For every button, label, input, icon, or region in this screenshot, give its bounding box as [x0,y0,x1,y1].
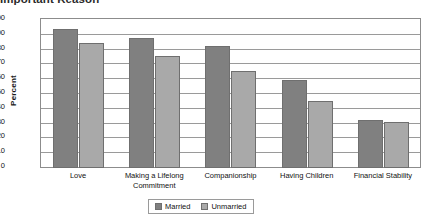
bar-series-layer [41,19,420,168]
chart-legend: MarriedUnmarried [148,199,254,214]
y-axis-tick-label: 30 [0,118,5,126]
bar-unmarried [79,43,104,168]
legend-swatch-icon [155,203,162,210]
legend-label: Married [165,202,190,211]
y-axis-tick-label: 20 [0,132,5,140]
bar-married [282,80,307,168]
y-axis-tick-label: 80 [0,44,5,52]
bar-married [53,29,78,168]
bar-unmarried [231,71,256,168]
bar-married [129,38,154,168]
y-axis-tick-label: 10 [0,147,5,155]
x-axis-tick-label-line: Financial Stability [331,171,428,181]
legend-label: Unmarried [211,202,246,211]
y-axis-tick-label: 50 [0,88,5,96]
bar-unmarried [155,56,180,168]
x-axis-tick-label: Financial Stability [331,171,428,181]
x-axis-tick-label-line: Commitment [102,181,206,191]
bar-group [129,19,181,168]
bar-unmarried [308,101,333,168]
bar-group [205,19,257,168]
legend-swatch-icon [201,203,208,210]
legend-item: Married [155,202,190,211]
bar-married [205,46,230,168]
y-axis-tick-label: 40 [0,103,5,111]
y-axis-tick-label: 60 [0,73,5,81]
bar-married [358,120,383,168]
legend-item: Unmarried [201,202,246,211]
y-axis-tick-label: 70 [0,58,5,66]
bar-group [53,19,105,168]
y-axis-title: Percent [9,61,18,121]
chart-title: Important Reason [0,0,99,5]
y-axis-tick-label: 0 [0,162,5,170]
bar-unmarried [384,122,409,168]
bar-group [282,19,334,168]
y-axis-tick-label: 90 [0,29,5,37]
y-axis-tick-label: 100 [0,14,5,22]
bar-group [358,19,410,168]
